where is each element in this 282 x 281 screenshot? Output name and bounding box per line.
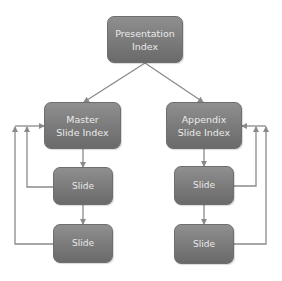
node-label: Slide: [193, 179, 215, 192]
node-label-line2: Index: [115, 40, 175, 53]
node-label-line1: Appendix: [178, 113, 230, 126]
node-master-slide-2: Slide: [53, 224, 113, 263]
edge-presentation-to-appendix: [145, 63, 203, 102]
node-label-line2: Slide Index: [56, 126, 108, 139]
node-presentation-index: Presentation Index: [107, 16, 183, 63]
node-label: Slide: [193, 238, 215, 251]
node-appendix-slide-2: Slide: [174, 224, 234, 264]
node-label-line2: Slide Index: [178, 126, 230, 139]
edge-presentation-to-master: [84, 63, 145, 102]
node-appendix-slide-1: Slide: [174, 166, 234, 205]
node-label-line1: Presentation: [115, 27, 175, 40]
node-appendix-slide-index: Appendix Slide Index: [166, 102, 242, 149]
node-label: Slide: [72, 237, 94, 250]
node-label: Slide: [72, 180, 94, 193]
node-label-line1: Master: [56, 113, 108, 126]
node-master-slide-1: Slide: [53, 167, 113, 205]
node-master-slide-index: Master Slide Index: [44, 102, 121, 149]
